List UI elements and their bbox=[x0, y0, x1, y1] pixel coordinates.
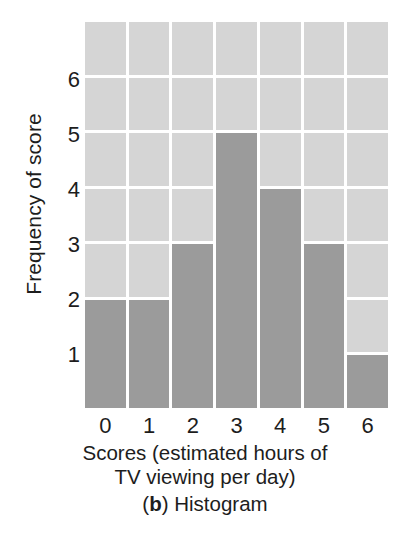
grid-cell bbox=[172, 189, 213, 242]
grid-cell bbox=[347, 22, 388, 75]
histogram-bar bbox=[216, 133, 257, 408]
x-tick-label-5: 5 bbox=[304, 412, 345, 440]
histogram-column bbox=[304, 22, 345, 408]
y-axis-title: Frequency of score bbox=[12, 0, 56, 408]
y-tick-label-5: 5 bbox=[52, 124, 80, 146]
x-tick-label-3: 3 bbox=[216, 412, 257, 440]
histogram-column bbox=[85, 22, 126, 408]
grid-cell bbox=[129, 133, 170, 186]
histogram-bar bbox=[260, 189, 301, 408]
grid-cell bbox=[260, 133, 301, 186]
histogram-bar bbox=[129, 300, 170, 408]
x-tick-label-1: 1 bbox=[129, 412, 170, 440]
histogram-column bbox=[172, 22, 213, 408]
grid-cell bbox=[260, 78, 301, 131]
grid-cell bbox=[260, 22, 301, 75]
x-tick-label-6: 6 bbox=[347, 412, 388, 440]
x-axis-title-line-2: TV viewing per day) bbox=[40, 465, 370, 489]
x-axis-tick-label-group: 0 1 2 3 4 5 6 bbox=[85, 412, 388, 440]
grid-cell bbox=[347, 78, 388, 131]
histogram-bar bbox=[85, 300, 126, 408]
grid-cell bbox=[304, 22, 345, 75]
histogram-bar bbox=[304, 244, 345, 408]
grid-cell bbox=[304, 189, 345, 242]
grid-cell bbox=[347, 244, 388, 297]
grid-cell bbox=[129, 244, 170, 297]
grid-cell bbox=[85, 78, 126, 131]
x-tick-label-0: 0 bbox=[85, 412, 126, 440]
y-tick-label-1: 1 bbox=[52, 344, 80, 366]
grid-cell bbox=[172, 78, 213, 131]
histogram-figure: Frequency of score 1 2 3 4 5 6 0 1 2 3 4… bbox=[0, 0, 406, 534]
figure-caption: (b) Histogram bbox=[40, 492, 370, 516]
x-axis-title-line-1: Scores (estimated hours of bbox=[83, 441, 328, 464]
y-tick-label-4: 4 bbox=[52, 179, 80, 201]
grid-cell bbox=[347, 189, 388, 242]
caption-text: ) Histogram bbox=[162, 492, 268, 515]
grid-cell bbox=[129, 22, 170, 75]
grid-cell bbox=[304, 78, 345, 131]
grid-cell bbox=[85, 189, 126, 242]
histogram-column bbox=[216, 22, 257, 408]
y-tick-label-2: 2 bbox=[52, 289, 80, 311]
y-tick-label-6: 6 bbox=[52, 69, 80, 91]
grid-cell bbox=[129, 189, 170, 242]
grid-cell bbox=[216, 22, 257, 75]
grid-cell bbox=[85, 244, 126, 297]
histogram-column bbox=[347, 22, 388, 408]
histogram-bar bbox=[347, 355, 388, 408]
grid-cell bbox=[172, 133, 213, 186]
x-tick-label-2: 2 bbox=[172, 412, 213, 440]
x-tick-label-4: 4 bbox=[260, 412, 301, 440]
grid-cell bbox=[216, 78, 257, 131]
y-axis-tick-label-group: 1 2 3 4 5 6 bbox=[52, 22, 80, 408]
histogram-column bbox=[129, 22, 170, 408]
grid-cell bbox=[347, 300, 388, 353]
histogram-bar bbox=[172, 244, 213, 408]
histogram-column bbox=[260, 22, 301, 408]
grid-cell bbox=[304, 133, 345, 186]
grid-cell bbox=[85, 22, 126, 75]
caption-panel-letter: b bbox=[149, 492, 162, 515]
grid-cell bbox=[172, 22, 213, 75]
grid-cell bbox=[85, 133, 126, 186]
y-tick-label-3: 3 bbox=[52, 234, 80, 256]
plot-area bbox=[85, 22, 388, 408]
grid-cell bbox=[347, 133, 388, 186]
x-axis-title: Scores (estimated hours of TV viewing pe… bbox=[40, 441, 370, 489]
grid-cell bbox=[129, 78, 170, 131]
